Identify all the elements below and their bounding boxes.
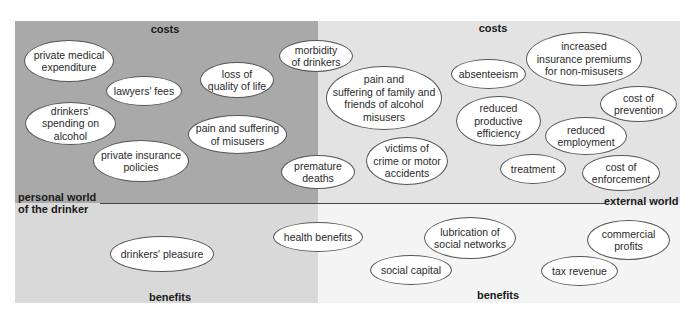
- bubble-lubrication-of-social-networks: lubrication of social networks: [424, 217, 516, 259]
- personal-external-divider: [100, 203, 605, 204]
- bubble-cost-of-enforcement: cost of enforcement: [582, 155, 660, 191]
- bubble-commercial-profits: commercial profits: [587, 220, 670, 260]
- bubble-health-benefits: health benefits: [273, 222, 363, 252]
- bubble-tax-revenue: tax revenue: [541, 256, 618, 286]
- bubble-loss-of-quality-of-life: loss of quality of life: [200, 62, 274, 98]
- bubble-private-medical-expenditure: private medical expenditure: [24, 40, 114, 82]
- bubble-treatment: treatment: [500, 154, 566, 184]
- bubble-increased-insurance-premiums: increased insurance premiums for non-mis…: [526, 32, 642, 86]
- heading-external-costs: costs: [468, 22, 518, 34]
- heading-personal-benefits: benefits: [140, 291, 200, 303]
- heading-personal-costs: costs: [140, 23, 190, 35]
- label-personal-world: personal world of the drinker: [18, 191, 118, 215]
- bubble-drinkers-pleasure: drinkers' pleasure: [110, 236, 214, 272]
- bubble-morbidity-of-drinkers: morbidity of drinkers: [279, 40, 353, 72]
- bubble-drinkers-spending-on-alcohol: drinkers' spending on alcohol: [25, 102, 116, 145]
- bubble-private-insurance-policies: private insurance policies: [93, 140, 189, 182]
- bubble-reduced-productive-efficiency: reduced productive efficiency: [456, 96, 541, 146]
- bubble-absenteeism: absenteeism: [451, 59, 526, 89]
- bubble-cost-of-prevention: cost of prevention: [600, 86, 677, 122]
- bubble-pain-and-suffering-of-misusers: pain and suffering of misusers: [188, 115, 287, 154]
- label-external-world: external world: [604, 195, 694, 207]
- bubble-pain-suffering-family-friends: pain and suffering of family and friends…: [326, 66, 442, 130]
- bubble-premature-deaths: premature deaths: [281, 155, 355, 189]
- bubble-reduced-employment: reduced employment: [545, 117, 627, 155]
- bubble-social-capital: social capital: [370, 255, 452, 285]
- heading-external-benefits: benefits: [468, 289, 528, 301]
- bubble-victims-of-crime: victims of crime or motor accidents: [366, 137, 448, 185]
- bubble-lawyers-fees: lawyers' fees: [106, 76, 182, 106]
